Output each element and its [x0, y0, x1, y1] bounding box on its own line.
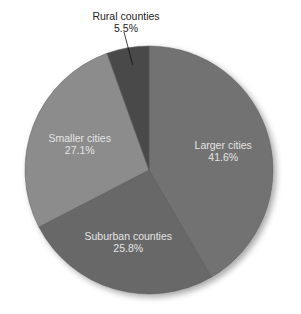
slice-label-value: 27.1% — [65, 144, 95, 156]
slice-label-name: Larger cities — [195, 139, 252, 151]
slice-label-name: Rural counties — [92, 10, 159, 22]
pie-slices — [25, 46, 273, 294]
slice-label-name: Smaller cities — [49, 132, 111, 144]
slice-label-value: 25.8% — [113, 242, 143, 254]
slice-label-name: Suburban counties — [84, 230, 172, 242]
slice-label-value: 41.6% — [208, 151, 238, 163]
slice-label-value: 5.5% — [114, 22, 138, 34]
pie-chart: Larger cities41.6%Suburban counties25.8%… — [0, 0, 301, 314]
